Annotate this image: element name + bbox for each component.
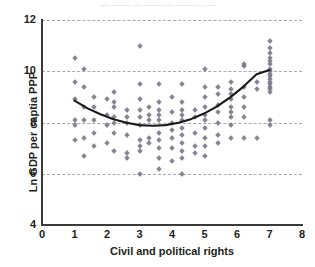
x-tick-3: 3 — [130, 228, 150, 240]
x-tick-8: 8 — [292, 228, 312, 240]
x-tick-7: 7 — [260, 228, 280, 240]
y-axis-tick-labels: 4681012 — [0, 0, 315, 267]
y-axis-title-wrap: Ln GDP per captia PPP — [14, 52, 28, 172]
x-tick-0: 0 — [32, 228, 52, 240]
x-tick-2: 2 — [97, 228, 117, 240]
x-tick-5: 5 — [195, 228, 215, 240]
y-axis-title: Ln GDP per captia PPP — [27, 57, 39, 207]
scatter-chart: — — — — — — — — — — — 4681012 012345678 … — [0, 0, 315, 267]
x-tick-4: 4 — [162, 228, 182, 240]
y-tick-12: 12 — [10, 14, 36, 25]
x-tick-1: 1 — [65, 228, 85, 240]
x-tick-6: 6 — [227, 228, 247, 240]
x-axis-title: Civil and political rights — [42, 245, 302, 257]
